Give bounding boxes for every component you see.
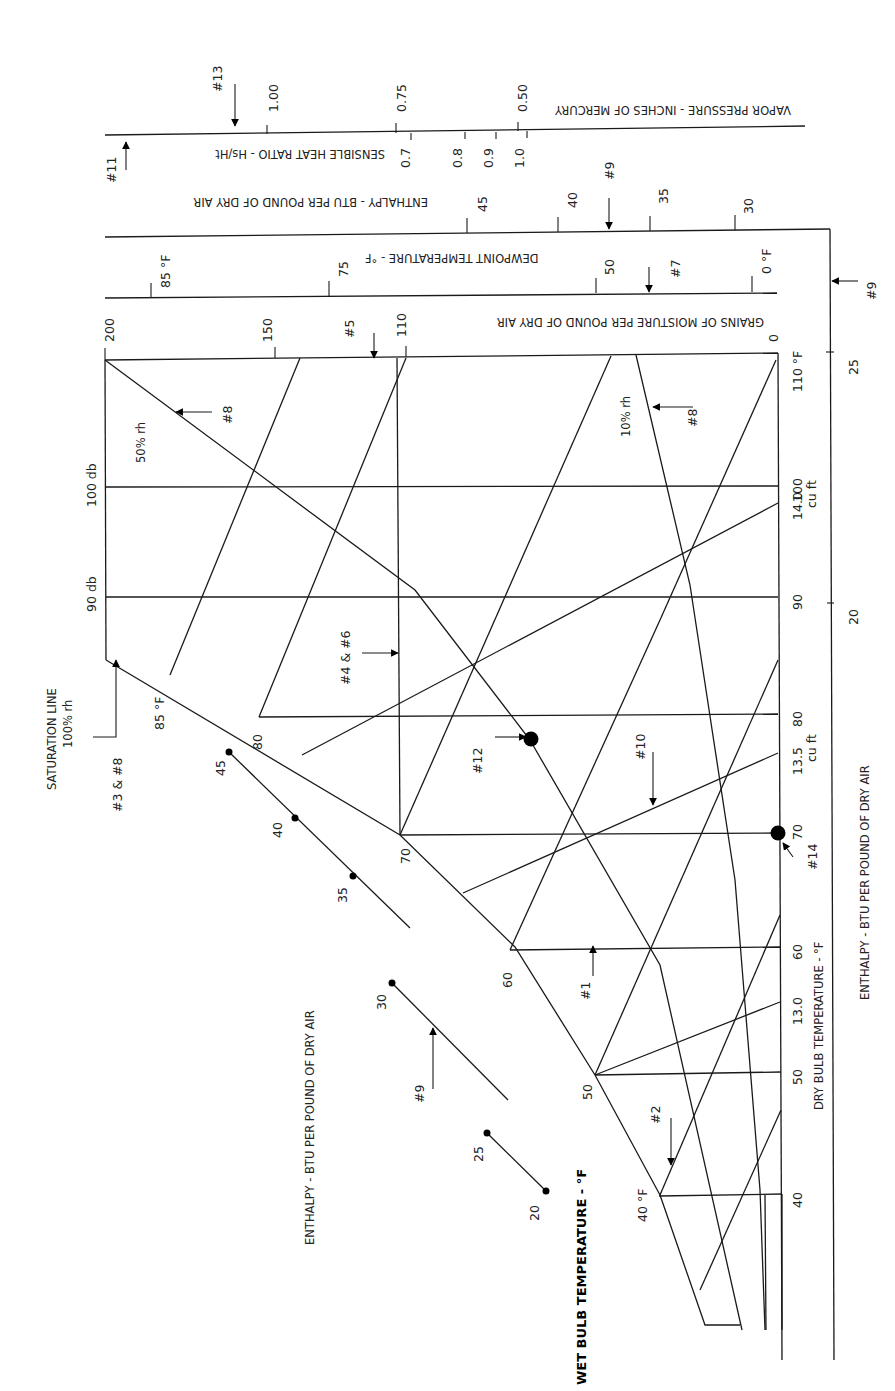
enth-left-45: 45 (213, 760, 228, 776)
dewpoint-tick-75: 75 (336, 261, 351, 277)
dewpoint-axis (105, 293, 777, 298)
enth-left-40: 40 (270, 822, 285, 838)
dry-bulb-ticks: 40 50 60 70 80 90 100 110 °F 13.0 13.5 c… (790, 351, 826, 1208)
chart-grid: 200 150 110 0 GRAINS OF MOISTURE PER POU… (102, 229, 872, 1360)
saturation-line (106, 660, 660, 1195)
top-scales: 1.00 0.75 0.50 VAPOR PRESSURE - INCHES O… (105, 84, 830, 298)
sensible-heat-ratio-label: SENSIBLE HEAT RATIO - Hs/Ht (215, 147, 385, 161)
sv-unit-14.0: cu ft (804, 480, 819, 508)
psychrometric-chart: 1.00 0.75 0.50 VAPOR PRESSURE - INCHES O… (0, 0, 895, 1391)
dewpoint-tick-50: 50 (602, 259, 617, 275)
shr-tick-0.7: 0.7 (398, 148, 413, 168)
grains-tick-200: 200 (102, 318, 117, 342)
db-tick-40: 40 (790, 1192, 805, 1208)
callout-8-rh10: #8 (685, 409, 700, 427)
enth-left-35: 35 (335, 887, 350, 903)
enth-left-30: 30 (374, 994, 389, 1010)
db-70-line (400, 833, 778, 835)
dewpoint-tick-85: 85 °F (158, 255, 173, 288)
callout-2: #2 (648, 1106, 663, 1124)
db-tick-90: 90 (790, 594, 805, 610)
callout-14: #14 (805, 844, 820, 870)
callouts: #13 #11 #9 #7 #9 #5 #8 #8 #4 & #6 #3 & #… (93, 66, 879, 1165)
grains-axis (105, 353, 778, 360)
callout-10: #10 (633, 734, 648, 760)
line-labels: SATURATION LINE 100% rh 50% rh 10% rh 10… (45, 396, 633, 790)
shr-tick-1.0: 1.0 (512, 148, 527, 168)
grains-tick-0: 0 (766, 334, 781, 342)
grains-tick-110: 110 (394, 313, 409, 337)
sv-tick-14.0: 14.0 (790, 492, 805, 520)
enthalpy-top-tick-30: 30 (741, 198, 756, 214)
callout-9-right: #9 (864, 282, 879, 300)
db-tick-70: 70 (790, 824, 805, 840)
db90-label: 90 db (84, 576, 99, 612)
enth-left-20: 20 (527, 1205, 542, 1221)
wet-bulb-ticks: 40 °F 50 60 70 80 85 °F WET BULB TEMPERA… (152, 697, 650, 1385)
callout-8-rh50: #8 (220, 406, 235, 424)
saturation-rh-label: 100% rh (61, 700, 75, 748)
sv-tick-13.5: 13.5 (790, 747, 805, 775)
shr-tick-0.8: 0.8 (450, 148, 465, 168)
enthalpy-bottom-tick-20: 20 (846, 609, 861, 625)
db-tick-110: 110 °F (790, 351, 805, 392)
vp-tick-0.50: 0.50 (515, 84, 530, 112)
dewpoint-label: DEWPOINT TEMPERATURE - °F (365, 251, 539, 265)
enthalpy-bottom-label: ENTHALPY - BTU PER POUND OF DRY AIR (858, 765, 872, 1000)
enthalpy-bottom-axis (830, 229, 834, 1360)
sv-unit-13.5: cu ft (804, 734, 819, 762)
sv-13.5-line (463, 753, 778, 893)
saturation-line-label: SATURATION LINE (45, 688, 59, 790)
db-tick-60: 60 (790, 944, 805, 960)
callout-9-top: #9 (602, 162, 617, 180)
db-40-line (659, 1194, 782, 1196)
rh10-label-main: 10% rh (619, 396, 633, 437)
wb-tick-60: 60 (500, 972, 515, 988)
wb-70-line (400, 356, 611, 835)
callout-12: #12 (470, 748, 485, 774)
db-tick-80: 80 (790, 711, 805, 727)
vp-tick-0.75: 0.75 (394, 84, 409, 112)
rh50-label: 50% rh (134, 422, 148, 463)
enthalpy-top-tick-35: 35 (656, 188, 671, 204)
callout-1: #1 (578, 982, 593, 1000)
enthalpy-top-label: ENTHALPY - BTU PER POUND OF DRY AIR (193, 195, 428, 209)
callout-7: #7 (668, 260, 683, 278)
wb-tick-40: 40 °F (635, 1189, 650, 1222)
db-100-line (105, 486, 778, 487)
shr-tick-0.9: 0.9 (481, 148, 496, 168)
db-60-line (510, 947, 780, 950)
enthalpy-left-scale: 45 40 35 30 25 20 ENTHALPY - BTU PER POU… (213, 749, 550, 1246)
enthalpy-top-tick-45: 45 (475, 196, 490, 212)
enthalpy-bottom-tick-25: 25 (846, 359, 861, 375)
callout-9-left: #9 (412, 1085, 427, 1103)
db-50-line (595, 1072, 781, 1075)
db-tick-50: 50 (790, 1069, 805, 1085)
wb-80-line (259, 358, 406, 717)
enthalpy-left-label: ENTHALPY - BTU PER POUND OF DRY AIR (303, 1010, 317, 1245)
grains-label: GRAINS OF MOISTURE PER POUND OF DRY AIR (497, 315, 764, 329)
wb-tick-85: 85 °F (152, 697, 167, 730)
wb-85-line (170, 358, 300, 675)
db100-label: 100 db (84, 463, 99, 507)
sv-tick-13.0: 13.0 (790, 997, 805, 1025)
state-point-12 (524, 732, 539, 747)
vp-tick-1.00: 1.00 (266, 84, 281, 112)
callout-3-8: #3 & #8 (110, 757, 125, 812)
vapor-pressure-label: VAPOR PRESSURE - INCHES OF MERCURY (554, 103, 791, 117)
dry-bulb-label: DRY BULB TEMPERATURE - °F (812, 942, 826, 1111)
state-point-14 (771, 826, 786, 841)
enthalpy-top-tick-40: 40 (565, 192, 580, 208)
enth-left-25: 25 (471, 1146, 486, 1162)
vapor-pressure-axis (105, 126, 805, 135)
wb-tick-80: 80 (250, 734, 265, 750)
callout-5: #5 (342, 320, 357, 338)
wb-60-line (595, 660, 778, 1075)
grains-tick-150: 150 (260, 318, 275, 342)
wb-tick-70: 70 (398, 848, 413, 864)
callout-11: #11 (104, 157, 119, 183)
sv-14.0-line (302, 503, 778, 755)
wb-tick-50: 50 (580, 1084, 595, 1100)
dewpoint-tick-0: 0 °F (759, 249, 774, 274)
callout-13: #13 (210, 66, 225, 92)
